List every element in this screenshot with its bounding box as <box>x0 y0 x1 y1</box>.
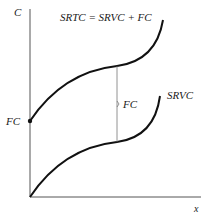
y-axis-label: C <box>14 6 22 18</box>
x-axis-label: x <box>193 203 199 214</box>
srtc-label: SRTC = SRVC + FC <box>60 11 152 23</box>
fc-intercept-dot <box>28 119 32 123</box>
fc-intercept-label: FC <box>5 115 21 127</box>
srvc-label: SRVC <box>167 89 194 101</box>
srvc-curve <box>30 96 160 197</box>
fc-gap-label: FC <box>122 98 138 110</box>
srtc-curve <box>30 20 163 121</box>
cost-curves-diagram: C x SRTC = SRVC + FC SRVC FC FC <box>0 0 206 216</box>
